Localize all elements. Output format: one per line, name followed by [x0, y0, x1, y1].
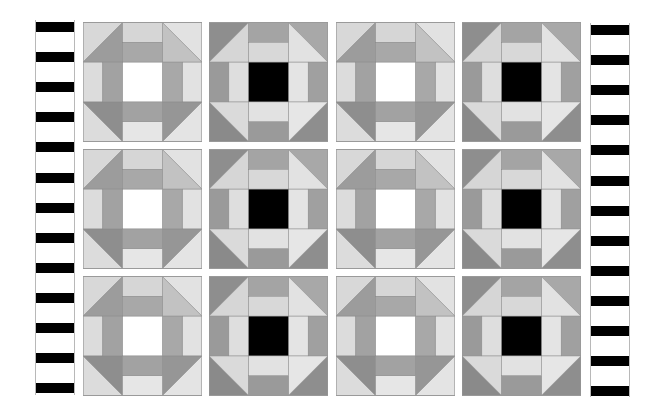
quilt-block-light-center: [336, 22, 455, 142]
quilt-block-light-center: [83, 276, 202, 396]
stripe-bar: [36, 82, 74, 92]
stripe-bar: [591, 326, 629, 336]
quilt-block-dark-center: [462, 276, 581, 396]
stripe-bar: [591, 115, 629, 125]
left-border-strip: [35, 20, 75, 395]
stripe-bar: [36, 293, 74, 303]
stripe-bar: [36, 52, 74, 62]
stripe-bar: [36, 263, 74, 273]
stripe-bar: [591, 266, 629, 276]
quilt-block-light-center: [336, 276, 455, 396]
stripe-bar: [591, 55, 629, 65]
quilt-block-light-center: [83, 149, 202, 269]
stripe-bar: [591, 296, 629, 306]
stripe-bar: [591, 176, 629, 186]
stripe-bar: [36, 142, 74, 152]
stripe-bar: [36, 353, 74, 363]
right-border-strip: [590, 23, 630, 397]
stripe-bar: [36, 173, 74, 183]
stripe-bar: [591, 85, 629, 95]
stripe-bar: [591, 386, 629, 396]
quilt-block-dark-center: [209, 276, 328, 396]
stripe-bar: [591, 25, 629, 35]
stripe-bar: [36, 203, 74, 213]
quilt-block-dark-center: [209, 149, 328, 269]
stripe-bar: [36, 383, 74, 393]
stripe-bar: [36, 22, 74, 32]
stripe-bar: [36, 323, 74, 333]
stripe-bar: [591, 206, 629, 216]
quilt-block-light-center: [83, 22, 202, 142]
stripe-bar: [591, 356, 629, 366]
stripe-bar: [591, 145, 629, 155]
stripe-bar: [36, 112, 74, 122]
quilt-block-light-center: [336, 149, 455, 269]
quilt-block-dark-center: [462, 22, 581, 142]
stripe-bar: [591, 236, 629, 246]
quilt-block-dark-center: [209, 22, 328, 142]
stripe-bar: [36, 233, 74, 243]
quilt-block-dark-center: [462, 149, 581, 269]
